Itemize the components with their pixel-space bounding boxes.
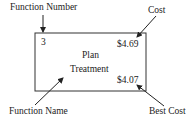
function-name-line1: Plan	[82, 51, 99, 61]
function-name-label: Function Name	[9, 107, 68, 117]
function-name-line2: Treatment	[70, 65, 109, 75]
cost-value: $4.69	[117, 40, 138, 50]
function-number-value: 3	[41, 38, 46, 48]
function-number-label: Function Number	[10, 3, 77, 13]
best-cost-label: Best Cost	[149, 107, 186, 117]
best-cost-arrow	[137, 85, 164, 106]
cost-label: Cost	[148, 6, 165, 16]
best-cost-value: $4.07	[117, 76, 138, 86]
